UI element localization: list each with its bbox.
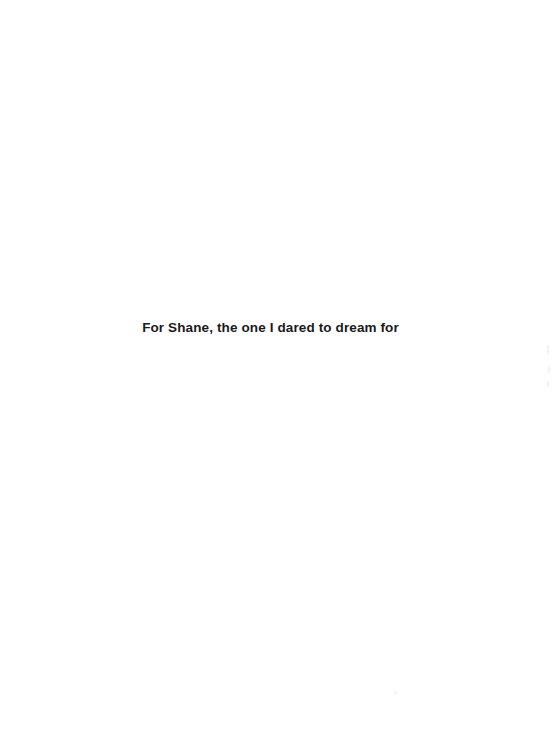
dedication-text: For Shane, the one I dared to dream for (142, 319, 399, 337)
dedication-page: For Shane, the one I dared to dream for (0, 0, 553, 753)
scan-artifact-speck (394, 691, 397, 694)
dedication-block: For Shane, the one I dared to dream for (0, 305, 553, 350)
scan-artifact-speck (547, 381, 549, 387)
scan-artifact-speck (548, 366, 550, 373)
